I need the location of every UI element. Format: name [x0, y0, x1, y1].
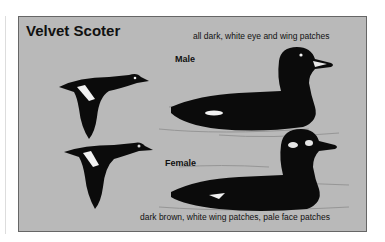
species-plate: Velvet Scoter all dark, white eye and wi…	[18, 16, 367, 232]
female-caption: dark brown, white wing patches, pale fac…	[140, 212, 330, 222]
left-margin-rule	[5, 16, 6, 234]
species-title: Velvet Scoter	[26, 22, 120, 39]
female-label: Female	[165, 158, 196, 168]
flying-male-scoter	[59, 74, 149, 139]
male-label: Male	[175, 54, 195, 64]
male-caption: all dark, white eye and wing patches	[193, 31, 330, 41]
scoter-illustrations-icon	[19, 17, 367, 232]
swimming-male-scoter	[171, 47, 333, 131]
flying-female-scoter	[64, 142, 153, 209]
swimming-female-scoter	[171, 129, 337, 211]
